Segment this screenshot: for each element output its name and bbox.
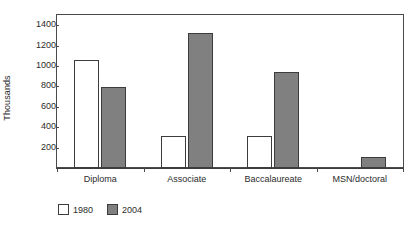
- bar-group: [317, 15, 404, 168]
- x-tick-mark: [403, 168, 404, 172]
- legend-label: 1980: [73, 205, 93, 215]
- x-category-label: Associate: [144, 174, 231, 185]
- y-axis-ticks: 200400600800100012001400: [20, 0, 56, 229]
- legend-swatch-icon: [107, 204, 118, 215]
- bar-group: [230, 15, 317, 168]
- x-category-label: MSN/doctoral: [317, 174, 404, 185]
- bar-2004-msn-doctoral: [361, 157, 386, 168]
- legend-label: 2004: [122, 205, 142, 215]
- legend-swatch-icon: [58, 204, 69, 215]
- x-category-label: Baccalaureate: [230, 174, 317, 185]
- bar-group: [144, 15, 231, 168]
- bar-1980-associate: [161, 136, 186, 168]
- y-tick-label: 1000: [26, 61, 56, 70]
- y-tick-label: 600: [26, 102, 56, 111]
- y-tick-label: 400: [26, 122, 56, 131]
- x-tick-mark: [57, 168, 58, 172]
- bar-1980-diploma: [74, 60, 99, 168]
- y-tick-label: 800: [26, 81, 56, 90]
- bar-chart: Thousands 200400600800100012001400 Diplo…: [0, 0, 413, 229]
- x-tick-mark: [230, 168, 231, 172]
- y-tick-label: 1400: [26, 20, 56, 29]
- bar-2004-diploma: [101, 87, 126, 168]
- chart-legend: 19802004: [58, 204, 142, 215]
- bar-group: [57, 15, 144, 168]
- legend-entry-1980[interactable]: 1980: [58, 204, 93, 215]
- bar-1980-baccalaureate: [247, 136, 272, 168]
- x-category-label: Diploma: [57, 174, 144, 185]
- y-tick-label: 1200: [26, 41, 56, 50]
- bars-layer: [57, 15, 403, 168]
- y-tick-label: 200: [26, 143, 56, 152]
- bar-2004-baccalaureate: [274, 72, 299, 168]
- legend-entry-2004[interactable]: 2004: [107, 204, 142, 215]
- y-axis-title: Thousands: [2, 58, 12, 138]
- x-tick-mark: [144, 168, 145, 172]
- bar-2004-associate: [188, 33, 213, 168]
- x-tick-mark: [317, 168, 318, 172]
